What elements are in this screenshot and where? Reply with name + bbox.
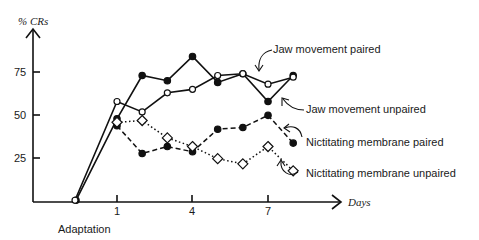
series-line: [76, 56, 293, 200]
legend-jm-unpaired: Jaw movement unpaired: [306, 103, 426, 115]
open-circle-marker: [265, 81, 271, 87]
x-tick-4: 4: [189, 205, 195, 217]
x-tick-7: 7: [265, 205, 271, 217]
open-circle-marker: [114, 98, 120, 104]
open-circle-marker: [164, 90, 170, 96]
filled-circle-marker: [139, 150, 145, 156]
filled-circle-marker: [164, 143, 170, 149]
diamond-marker: [263, 142, 273, 152]
filled-circle-marker: [139, 72, 145, 78]
filled-circle-marker: [265, 112, 271, 118]
x-tick-1: 1: [114, 205, 120, 217]
diamond-marker: [162, 133, 172, 143]
filled-circle-marker: [240, 124, 246, 130]
y-tick-50: 50: [14, 109, 26, 121]
series-layer: [72, 53, 298, 203]
open-circle-marker: [139, 109, 145, 115]
y-tick-75: 75: [14, 66, 26, 78]
legend-nm-paired: Nictitating membrane paired: [306, 136, 444, 148]
legend-jm-paired: Jaw movement paired: [273, 43, 381, 55]
x-axis-label: Days: [347, 196, 371, 208]
open-circle-marker: [215, 72, 221, 78]
diamond-marker: [137, 116, 147, 126]
open-circle-marker: [190, 86, 196, 92]
line-chart: % CRs 75 50 25 1 4 7 Days Adaptation Jaw…: [0, 0, 479, 240]
filled-circle-marker: [164, 77, 170, 83]
filled-circle-marker: [290, 140, 296, 146]
y-tick-25: 25: [14, 152, 26, 164]
diamond-marker: [238, 159, 248, 169]
legend-nm-unpaired: Nictitating membrane unpaired: [306, 167, 456, 179]
open-circle-marker: [240, 71, 246, 77]
y-axis-label: % CRs: [18, 15, 48, 27]
filled-circle-marker: [214, 126, 220, 132]
filled-circle-marker: [189, 53, 195, 59]
open-circle-marker: [290, 74, 296, 80]
filled-circle-marker: [214, 79, 220, 85]
y-axis: [26, 29, 40, 202]
adaptation-label: Adaptation: [58, 223, 111, 235]
filled-circle-marker: [265, 98, 271, 104]
open-circle-marker: [72, 197, 78, 203]
diamond-marker: [213, 154, 223, 164]
diamond-marker: [188, 142, 198, 152]
series-nictitating-membrane-unpaired: [112, 116, 298, 176]
series-jaw-movement-unpaired: [72, 71, 296, 204]
annotation-arrows: [255, 50, 304, 174]
